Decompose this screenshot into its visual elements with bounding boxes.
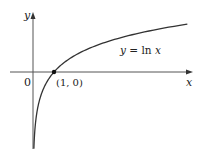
x-axis-arrow-icon — [186, 70, 193, 75]
y-axis-label: y — [24, 10, 30, 21]
point-1-0-marker — [52, 70, 56, 74]
y-axis-arrow-icon — [31, 12, 36, 19]
point-label: (1, 0) — [56, 78, 83, 88]
x-axis-label: x — [186, 77, 192, 88]
origin-label: 0 — [24, 77, 31, 88]
curve-label: y = ln x — [120, 45, 161, 56]
ln-graph — [0, 0, 204, 149]
